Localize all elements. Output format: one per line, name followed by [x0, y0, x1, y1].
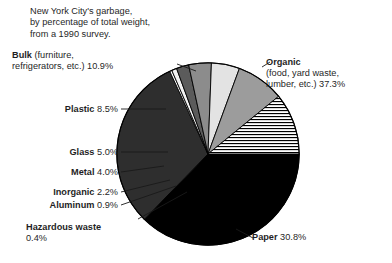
caption-line-2: by percentage of total weight, — [30, 17, 250, 28]
slice-label-bulk: Bulk (furniture, refrigerators, etc.) 10… — [12, 50, 177, 72]
slice-label-organic-detail-2: lumber, etc.) 37.3% — [266, 79, 345, 89]
slice-label-aluminum: Aluminum 0.9% — [2, 200, 118, 211]
slice-label-hazardous-name: Hazardous waste — [26, 222, 101, 232]
slice-label-paper: Paper 30.8% — [252, 232, 372, 243]
slice-label-plastic: Plastic 8.5% — [8, 104, 118, 115]
slice-label-organic-detail-1: (food, yard waste, — [266, 68, 339, 78]
slice-label-bulk-name: Bulk — [12, 50, 32, 60]
caption-line-3: from a 1990 survey. — [30, 29, 250, 40]
slice-label-plastic-value: 8.5% — [97, 104, 118, 114]
slice-label-glass-name: Glass — [69, 147, 94, 157]
slice-label-bulk-detail-1: (furniture, — [34, 50, 73, 60]
slice-label-metal: Metal 4.0% — [8, 167, 118, 178]
slice-label-metal-name: Metal — [71, 167, 95, 177]
slice-label-hazardous: Hazardous waste 0.4% — [26, 222, 146, 244]
slice-label-inorganic-value: 2.2% — [97, 187, 118, 197]
slice-label-bulk-detail-2: refrigerators, etc.) 10.9% — [12, 61, 113, 71]
slice-label-glass-value: 5.0% — [97, 147, 118, 157]
slice-label-organic: Organic (food, yard waste, lumber, etc.)… — [266, 57, 390, 91]
slice-label-aluminum-value: 0.9% — [97, 200, 118, 210]
slice-label-inorganic-name: Inorganic — [53, 187, 94, 197]
caption-line-1: New York City's garbage, — [30, 6, 250, 17]
slice-label-paper-name: Paper — [252, 232, 278, 242]
figure-caption: New York City's garbage, by percentage o… — [30, 6, 250, 40]
slice-label-glass: Glass 5.0% — [8, 147, 118, 158]
slice-label-organic-name: Organic — [266, 57, 301, 67]
slice-label-aluminum-name: Aluminum — [50, 200, 95, 210]
slice-label-paper-value: 30.8% — [280, 232, 306, 242]
slice-label-hazardous-value: 0.4% — [26, 233, 47, 243]
chart-figure: New York City's garbage, by percentage o… — [0, 0, 392, 263]
slice-label-metal-value: 4.0% — [97, 167, 118, 177]
slice-label-inorganic: Inorganic 2.2% — [2, 187, 118, 198]
slice-label-plastic-name: Plastic — [65, 104, 95, 114]
